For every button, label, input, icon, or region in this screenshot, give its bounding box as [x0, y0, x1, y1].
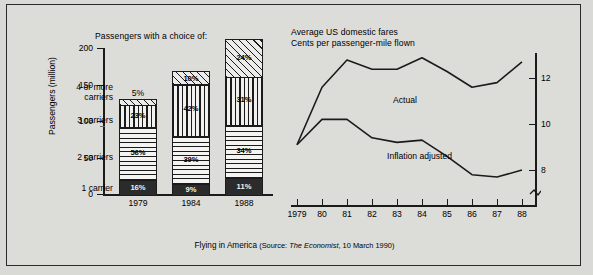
bar-1988-seg-2: 34% — [226, 125, 262, 178]
x-tick-84 — [422, 199, 423, 206]
caption-source-prefix: (Source: — [259, 241, 289, 250]
y-tick-label-12: 12 — [541, 73, 551, 83]
x-tick-label-1979: 1979 — [115, 198, 161, 208]
legend-label-1-carrier: 1 carrier — [39, 184, 113, 194]
x-tick-label-81: 81 — [334, 209, 360, 219]
bar-1988[interactable]: 24% 31% 34% 11% — [225, 39, 263, 194]
bar-1979-seg-3: 23% — [120, 105, 156, 127]
legend-label-3-carriers: 3 carriers — [39, 116, 113, 126]
x-tick-label-83: 83 — [384, 209, 410, 219]
x-tick-1979 — [297, 199, 298, 206]
y-tick-200 — [97, 48, 104, 49]
x-tick-label-88: 88 — [509, 209, 535, 219]
x-tick-88 — [522, 199, 523, 206]
y-tick-label-200: 200 — [59, 43, 93, 53]
bar-1979-label-2: 56% — [120, 148, 156, 157]
line-chart-y-axis — [535, 53, 537, 205]
bar-1979-label-4plus-outside: 5% — [115, 88, 161, 98]
bar-1988-seg-4plus: 24% — [226, 40, 262, 77]
x-tick-label-86: 86 — [459, 209, 485, 219]
series-label-inflation-adjusted: Inflation adjusted — [387, 151, 452, 161]
x-tick-80 — [322, 199, 323, 206]
bar-1984-seg-4plus: 10% — [173, 72, 209, 84]
x-tick-81 — [347, 199, 348, 206]
bar-1988-seg-3: 31% — [226, 77, 262, 125]
caption-source-name: The Economist — [289, 241, 338, 250]
x-tick-label-1988: 1988 — [221, 198, 267, 208]
bar-1979-seg-2: 56% — [120, 127, 156, 180]
axis-break-icon — [529, 185, 541, 199]
bar-1988-label-1: 11% — [226, 182, 262, 191]
legend-label-4-or-more-carriers: 4 or more carriers — [39, 83, 113, 102]
x-tick-83 — [397, 199, 398, 206]
x-tick-label-1979: 1979 — [284, 209, 310, 219]
y-tick-0 — [97, 194, 104, 195]
legend-line-2: carriers — [39, 93, 113, 103]
y-tick-label-8: 8 — [541, 165, 546, 175]
y-tick-label-10: 10 — [541, 119, 551, 129]
series-label-actual: Actual — [393, 95, 417, 105]
bar-1979-label-1: 16% — [120, 183, 156, 192]
x-tick-label-80: 80 — [309, 209, 335, 219]
bar-1984-seg-1: 9% — [173, 184, 209, 195]
bar-1984-label-4plus: 10% — [173, 74, 209, 83]
x-tick-label-82: 82 — [359, 209, 385, 219]
bar-1988-label-2: 34% — [226, 146, 262, 155]
bar-chart-panel: Passengers with a choice of: Passengers … — [41, 31, 273, 217]
line-chart-subtitle: Cents per passenger-mile flown — [291, 38, 415, 48]
legend-label-2-carriers: 2 carriers — [39, 153, 113, 163]
bar-1979-seg-1: 16% — [120, 180, 156, 195]
line-chart-title: Average US domestic fares — [291, 27, 398, 37]
caption-main: Flying in America — [195, 241, 257, 250]
x-tick-87 — [497, 199, 498, 206]
bar-1988-seg-1: 11% — [226, 178, 262, 195]
line-chart-x-axis — [291, 205, 537, 207]
x-tick-86 — [472, 199, 473, 206]
y-tick-minor — [100, 126, 105, 127]
caption-source-rest: , 10 March 1990) — [339, 241, 395, 250]
bar-1984-seg-2: 39% — [173, 136, 209, 184]
line-chart-plot — [289, 53, 533, 187]
x-tick-85 — [447, 199, 448, 206]
bar-1984-label-1: 9% — [173, 185, 209, 194]
bar-1984-seg-3: 42% — [173, 84, 209, 136]
bar-1984-label-2: 39% — [173, 155, 209, 164]
bar-1979[interactable]: 23% 56% 16% — [119, 99, 157, 194]
bar-1984[interactable]: 10% 42% 39% 9% — [172, 71, 210, 194]
figure-root: Passengers with a choice of: Passengers … — [0, 0, 593, 275]
bar-chart-title: Passengers with a choice of: — [95, 31, 207, 41]
x-tick-label-84: 84 — [409, 209, 435, 219]
bar-1979-label-3: 23% — [120, 111, 156, 120]
x-tick-label-87: 87 — [484, 209, 510, 219]
x-tick-label-85: 85 — [434, 209, 460, 219]
x-tick-82 — [372, 199, 373, 206]
figure-plate: Passengers with a choice of: Passengers … — [6, 4, 581, 266]
x-tick-label-1984: 1984 — [168, 198, 214, 208]
figure-caption: Flying in America (Source: The Economist… — [7, 241, 582, 250]
series-inflation-adjusted-line — [297, 119, 522, 177]
line-chart-panel: Average US domestic fares Cents per pass… — [289, 27, 577, 223]
bar-1984-label-3: 42% — [173, 104, 209, 113]
bar-1988-label-4plus: 24% — [226, 53, 262, 62]
bar-1988-label-3: 31% — [226, 95, 262, 104]
